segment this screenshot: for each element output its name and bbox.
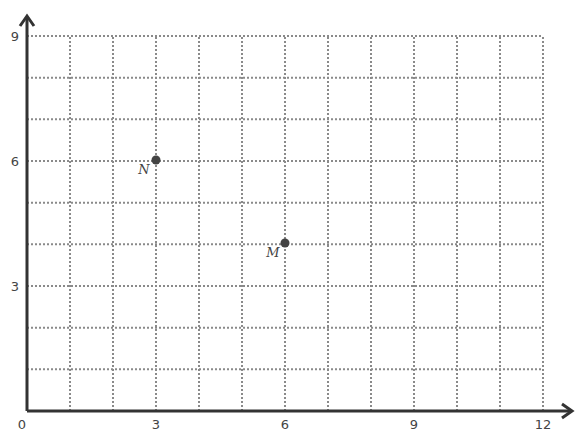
point-m-label: M <box>265 245 280 260</box>
point-n <box>152 156 161 165</box>
grid-lines <box>27 36 543 411</box>
coordinate-plane: 0 3 6 9 12 3 6 9 N M <box>0 0 586 437</box>
y-tick-3: 3 <box>11 279 19 294</box>
x-tick-12: 12 <box>535 417 552 432</box>
y-tick-9: 9 <box>11 29 19 44</box>
x-tick-3: 3 <box>152 417 160 432</box>
point-n-label: N <box>137 162 150 177</box>
origin-label: 0 <box>18 417 26 432</box>
y-tick-6: 6 <box>11 154 19 169</box>
x-tick-6: 6 <box>281 417 289 432</box>
x-tick-9: 9 <box>410 417 418 432</box>
point-m <box>281 239 290 248</box>
